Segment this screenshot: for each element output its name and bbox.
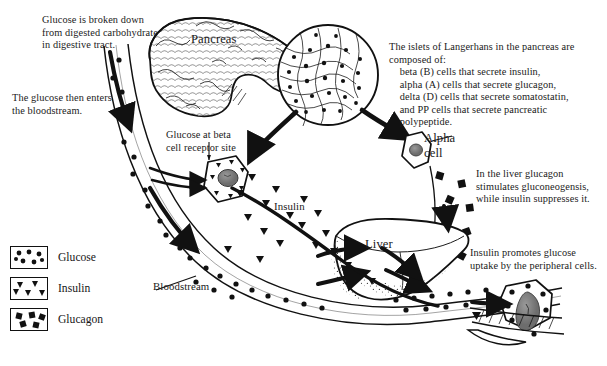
note-islets-of-langerhans: The islets of Langerhans in the pancreas… (389, 41, 574, 129)
label-liver: Liver (365, 237, 393, 252)
note-glucose-enters-bloodstream: The glucose then enters the bloodstream. (12, 92, 112, 117)
legend-label-glucose: Glucose (58, 251, 96, 264)
label-insulin: Insulin (274, 200, 305, 213)
diagram-canvas: Glucose is broken down from digested car… (0, 0, 607, 366)
insulin-secretion-arrow (250, 112, 296, 160)
note-insulin-promotes-uptake: Insulin promotes glucose uptake by the p… (470, 247, 597, 272)
circle-marker (10, 246, 48, 269)
note-liver-gluconeogenesis: In the liver glucagon stimulates glucone… (476, 168, 590, 206)
note-glucose-breakdown: Glucose is broken down from digested car… (42, 14, 158, 52)
square-marker (10, 308, 48, 331)
triangle-marker (10, 277, 48, 300)
legend-label-glucagon: Glucagon (58, 313, 103, 326)
note-glucose-at-beta-cell-receptor: Glucose at beta cell receptor site (166, 129, 236, 154)
legend-item-insulin: Insulin (10, 277, 90, 300)
legend-item-glucagon: Glucagon (10, 308, 103, 331)
legend-label-insulin: Insulin (58, 282, 90, 295)
label-bloodstream: Bloodstream (153, 280, 209, 293)
legend-item-glucose: Glucose (10, 246, 96, 269)
label-alpha-cell: Alpha cell (424, 131, 455, 162)
label-pancreas: Pancreas (191, 32, 237, 47)
